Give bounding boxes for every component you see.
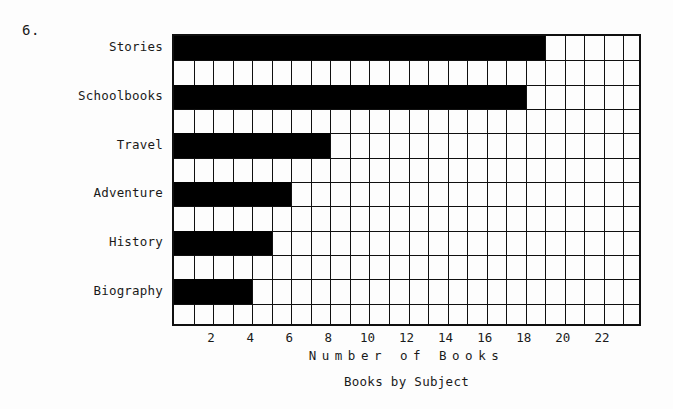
plot-inner bbox=[174, 36, 639, 324]
x-gridline bbox=[487, 36, 488, 324]
x-gridline bbox=[428, 36, 429, 324]
y-gridline bbox=[174, 304, 639, 305]
x-gridline bbox=[272, 36, 273, 324]
bar bbox=[174, 231, 272, 255]
bar-chart-plot-area bbox=[172, 34, 641, 326]
worksheet-page: 6. StoriesSchoolbooksTravelAdventureHist… bbox=[0, 0, 673, 409]
x-tick-label: 20 bbox=[555, 330, 570, 345]
category-label-adventure: Adventure bbox=[0, 185, 163, 200]
bar bbox=[174, 182, 291, 206]
x-tick-label: 4 bbox=[246, 330, 254, 345]
x-gridline bbox=[584, 36, 585, 324]
y-gridline bbox=[174, 109, 639, 110]
chart-caption: Books by Subject bbox=[172, 374, 641, 389]
x-axis-title: Number of Books bbox=[172, 348, 641, 363]
x-tick-label: 22 bbox=[594, 330, 609, 345]
category-axis-labels: StoriesSchoolbooksTravelAdventureHistory… bbox=[0, 34, 163, 326]
x-gridline bbox=[369, 36, 370, 324]
y-gridline bbox=[174, 158, 639, 159]
bar bbox=[174, 279, 252, 303]
x-gridline bbox=[311, 36, 312, 324]
category-label-biography: Biography bbox=[0, 282, 163, 297]
category-label-stories: Stories bbox=[0, 39, 163, 54]
x-gridline bbox=[565, 36, 566, 324]
x-gridline bbox=[409, 36, 410, 324]
x-tick-label: 16 bbox=[477, 330, 492, 345]
bar bbox=[174, 36, 545, 60]
y-gridline bbox=[174, 206, 639, 207]
x-gridline bbox=[506, 36, 507, 324]
x-gridline bbox=[330, 36, 331, 324]
x-gridline bbox=[350, 36, 351, 324]
x-tick-label: 2 bbox=[207, 330, 215, 345]
bar bbox=[174, 85, 526, 109]
x-gridline bbox=[448, 36, 449, 324]
x-tick-label: 10 bbox=[360, 330, 375, 345]
category-label-travel: Travel bbox=[0, 136, 163, 151]
y-gridline bbox=[174, 255, 639, 256]
bar bbox=[174, 133, 330, 157]
x-gridline bbox=[604, 36, 605, 324]
x-gridline bbox=[623, 36, 624, 324]
x-tick-label: 8 bbox=[325, 330, 333, 345]
x-tick-label: 18 bbox=[516, 330, 531, 345]
x-gridline bbox=[389, 36, 390, 324]
category-label-history: History bbox=[0, 233, 163, 248]
x-gridline bbox=[252, 36, 253, 324]
x-tick-label: 6 bbox=[285, 330, 293, 345]
category-label-schoolbooks: Schoolbooks bbox=[0, 87, 163, 102]
x-gridline bbox=[291, 36, 292, 324]
x-gridline bbox=[526, 36, 527, 324]
x-tick-label: 14 bbox=[438, 330, 453, 345]
x-gridline bbox=[467, 36, 468, 324]
y-gridline bbox=[174, 60, 639, 61]
x-gridline bbox=[545, 36, 546, 324]
x-axis-tick-labels: 246810121416182022 bbox=[172, 330, 641, 348]
x-tick-label: 12 bbox=[399, 330, 414, 345]
